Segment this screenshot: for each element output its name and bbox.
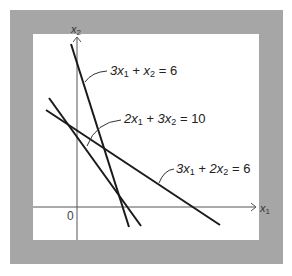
label-part: = 6	[155, 63, 177, 78]
leader-3x1-x2-6	[85, 71, 107, 82]
label-part: = 6	[228, 161, 250, 176]
x-axis-label-sub: 1	[266, 207, 270, 216]
x-axis-label: x1	[260, 202, 270, 218]
y-axis-label: x2	[71, 23, 81, 39]
leader-3x1-2x2-6	[159, 169, 174, 183]
label-part: + 2x	[195, 161, 224, 176]
label-part: + x	[129, 63, 150, 78]
label-part: 3x	[110, 63, 124, 78]
label-2x1-3x2-10: 2x1 + 3x2 = 10	[124, 112, 206, 129]
origin-label: 0	[67, 209, 74, 223]
label-part: 2x	[124, 111, 138, 126]
y-axis-label-sub: 2	[77, 28, 81, 37]
leader-2x1-3x2-10	[87, 120, 121, 146]
label-part: = 10	[176, 111, 205, 126]
label-3x1-x2-6: 3x1 + x2 = 6	[110, 64, 177, 81]
label-part: + 3x	[143, 111, 172, 126]
label-part: 3x	[176, 161, 190, 176]
diagram-canvas	[0, 0, 292, 276]
label-3x1-2x2-6: 3x1 + 2x2 = 6	[176, 162, 250, 179]
